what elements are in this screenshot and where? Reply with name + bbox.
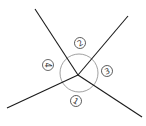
ray-upper-right <box>78 16 128 75</box>
intersecting-lines-diagram: 2431 <box>0 0 146 126</box>
diagram-canvas: 2431 <box>0 0 146 126</box>
ray-upper-left <box>35 9 78 75</box>
ray-lower-left <box>7 75 78 108</box>
angle-labels: 2431 <box>43 35 115 108</box>
angle-2-label: 2 <box>72 35 87 50</box>
angle-1-label: 1 <box>68 93 83 108</box>
angle-4-label: 4 <box>43 60 54 71</box>
ray-lower-right <box>78 75 142 117</box>
svg-text:3: 3 <box>103 66 111 76</box>
angle-3-label: 3 <box>100 64 114 78</box>
svg-text:4: 4 <box>43 62 52 67</box>
